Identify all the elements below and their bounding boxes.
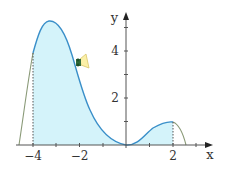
x-tick-label-neg2: −2 <box>71 149 89 163</box>
x-axis-label: x <box>206 147 214 162</box>
outer-curve-right <box>173 122 186 145</box>
chart: −4 −2 2 4 2 x y <box>0 0 226 172</box>
y-axis-label: y <box>110 10 119 25</box>
speaker-icon[interactable] <box>76 54 89 68</box>
outer-curve-left <box>19 53 33 145</box>
shaded-area <box>33 21 173 145</box>
y-tick-label-4: 4 <box>111 44 119 58</box>
x-tick-label-2: 2 <box>169 149 177 163</box>
x-tick-label-neg4: −4 <box>24 149 42 163</box>
y-axis-arrow-icon <box>123 12 129 20</box>
y-tick-label-2: 2 <box>111 91 119 105</box>
